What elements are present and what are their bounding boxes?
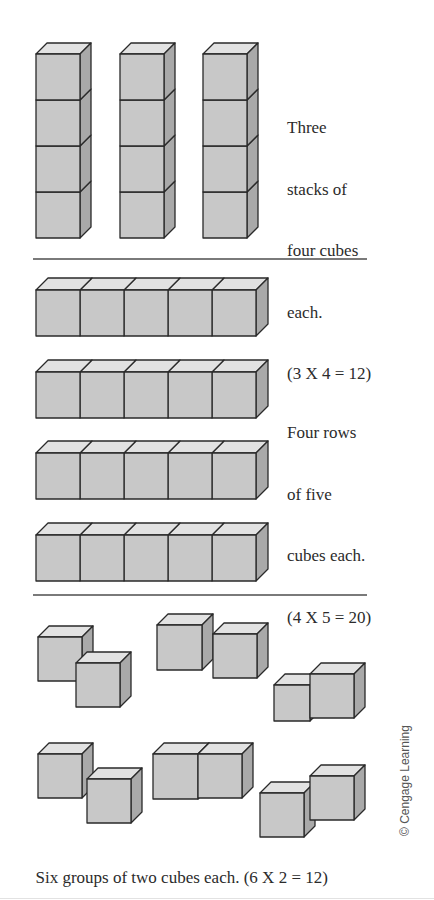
- cube-front-face: [212, 290, 256, 336]
- cube-front-face: [120, 192, 164, 238]
- cube-pair: [38, 743, 142, 823]
- cube-front-face: [120, 146, 164, 192]
- cube-front-face: [260, 793, 304, 837]
- cube: [212, 441, 268, 499]
- cube-front-face: [36, 100, 80, 146]
- cube-front-face: [36, 453, 80, 499]
- cube-front-face: [36, 54, 80, 100]
- cube: [198, 743, 253, 798]
- cube-front-face: [87, 779, 131, 823]
- cube: [310, 765, 365, 820]
- cube: [212, 360, 268, 418]
- cube-front-face: [36, 372, 80, 418]
- stacks-caption: Three stacks of four cubes each. (3 X 4 …: [287, 77, 371, 405]
- cube-front-face: [36, 146, 80, 192]
- cube-pair: [38, 626, 131, 707]
- section-divider: [33, 258, 367, 260]
- cube-row: [36, 523, 268, 581]
- cube-front-face: [36, 192, 80, 238]
- section-divider: [33, 594, 367, 596]
- cube: [260, 782, 315, 837]
- rows-caption-line: of five: [287, 485, 371, 506]
- cube-row: [36, 441, 268, 499]
- cube-front-face: [120, 54, 164, 100]
- stacks-caption-line: Three: [287, 118, 371, 139]
- cube-front-face: [212, 453, 256, 499]
- cube-side-face: [164, 43, 175, 100]
- cube-stack: [203, 43, 258, 238]
- cube-front-face: [212, 535, 256, 581]
- cube: [310, 663, 365, 718]
- cube-front-face: [168, 372, 212, 418]
- cube-front-face: [274, 685, 310, 721]
- cube: [120, 43, 175, 100]
- cube: [212, 523, 268, 581]
- cube-front-face: [80, 453, 124, 499]
- cube: [87, 768, 142, 823]
- cube-pair: [157, 614, 268, 678]
- cube: [157, 614, 213, 670]
- page-bottom-rule: [0, 898, 434, 899]
- cube-front-face: [310, 776, 354, 820]
- cube-front-face: [80, 535, 124, 581]
- cube-pair: [260, 765, 365, 837]
- cube: [213, 623, 268, 678]
- cube-front-face: [198, 754, 242, 798]
- cube-front-face: [310, 674, 354, 718]
- cube-row: [36, 360, 268, 418]
- stacks-caption-line: stacks of: [287, 180, 371, 201]
- cube-front-face: [38, 754, 82, 798]
- cube-front-face: [120, 100, 164, 146]
- cube-stack: [120, 43, 175, 238]
- cube-front-face: [124, 535, 168, 581]
- cube-front-face: [124, 453, 168, 499]
- cube: [36, 43, 91, 100]
- cube-front-face: [168, 453, 212, 499]
- cube-front-face: [124, 372, 168, 418]
- cube-front-face: [168, 290, 212, 336]
- cube: [76, 652, 131, 707]
- rows-equation: (4 X 5 = 20): [287, 608, 371, 629]
- cube-front-face: [203, 146, 247, 192]
- groups-caption: Six groups of two cubes each. (6 X 2 = 1…: [27, 847, 328, 888]
- cube-front-face: [76, 663, 120, 707]
- cube-front-face: [124, 290, 168, 336]
- cube-side-face: [247, 43, 258, 100]
- cube: [203, 43, 258, 100]
- rows-caption: Four rows of five cubes each. (4 X 5 = 2…: [287, 382, 371, 649]
- cube-front-face: [213, 634, 257, 678]
- cube-pair: [153, 743, 253, 799]
- cube: [38, 743, 93, 798]
- cube-pair: [274, 663, 365, 721]
- groups-caption-text: Six groups of two cubes each. (6 X 2 = 1…: [36, 868, 328, 887]
- cube-front-face: [80, 290, 124, 336]
- cube: [212, 278, 268, 336]
- cube-stack: [36, 43, 91, 238]
- rows-caption-line: Four rows: [287, 423, 371, 444]
- cube-front-face: [203, 100, 247, 146]
- cube-front-face: [203, 54, 247, 100]
- cube-front-face: [212, 372, 256, 418]
- cube-front-face: [36, 290, 80, 336]
- cube-front-face: [157, 625, 202, 670]
- cube-front-face: [168, 535, 212, 581]
- cube-front-face: [80, 372, 124, 418]
- cube-front-face: [36, 535, 80, 581]
- stacks-caption-line: each.: [287, 303, 371, 324]
- cube-side-face: [80, 43, 91, 100]
- rows-caption-line: cubes each.: [287, 546, 371, 567]
- cube-front-face: [153, 754, 198, 799]
- three-stacks-of-four-cubes: [36, 43, 258, 238]
- four-rows-of-five-cubes: [36, 278, 268, 581]
- copyright-credit: © Cengage Learning: [398, 725, 412, 836]
- cube-front-face: [203, 192, 247, 238]
- cube-row: [36, 278, 268, 336]
